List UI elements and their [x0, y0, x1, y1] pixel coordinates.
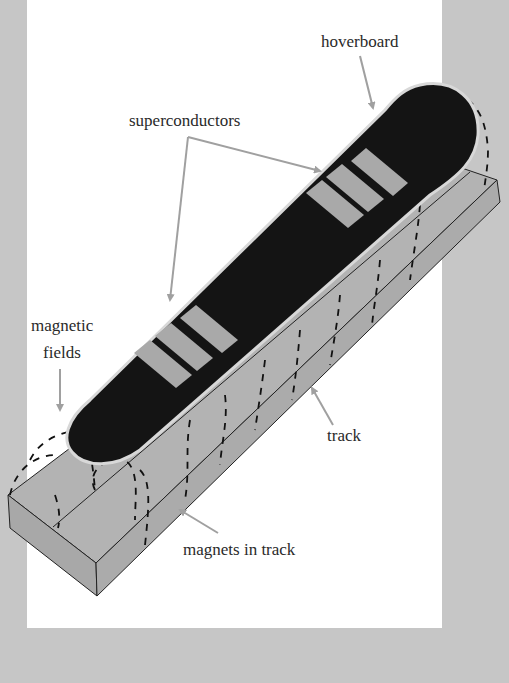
label-magnets: magnets in track [183, 541, 295, 558]
label-hoverboard: hoverboard [321, 33, 398, 50]
arrow-magnets [180, 510, 218, 533]
label-superconductors: superconductors [129, 112, 240, 129]
hoverboard-diagram [0, 0, 509, 683]
track [8, 163, 500, 596]
arrow-superconductors-1 [188, 137, 320, 171]
label-track: track [327, 427, 361, 444]
arrow-superconductors-2 [170, 137, 188, 300]
arrow-hoverboard [360, 56, 373, 108]
label-magnetic-line1: magnetic [31, 317, 93, 334]
arrow-track [312, 388, 333, 425]
label-magnetic-line2: fields [43, 344, 81, 361]
